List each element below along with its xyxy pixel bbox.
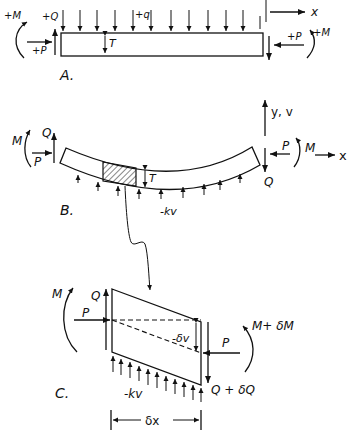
label-moment-left: M <box>52 287 63 301</box>
label-y-axis: y, v <box>271 105 293 119</box>
label-axial-right: P <box>222 336 230 350</box>
label-shear-left: Q <box>91 289 100 303</box>
panel-b: M Q P T -kv y, v P M x Q B. <box>12 100 347 290</box>
label-axial-left: P <box>82 306 90 320</box>
hatched-element <box>103 162 136 186</box>
label-moment-right: M <box>305 141 316 155</box>
label-x-axis: x <box>310 5 319 19</box>
label-x-axis: x <box>339 148 347 163</box>
label-length: δx <box>145 414 159 428</box>
label-shear-right: Q <box>264 175 273 189</box>
caption-b: B. <box>60 202 74 218</box>
label-shear-left: +Q <box>42 11 58 22</box>
label-moment-right: +M <box>313 27 330 38</box>
distributed-load-arrows <box>63 10 260 31</box>
label-shear-right: Q + δQ <box>211 383 255 397</box>
label-foundation: -kv <box>124 387 143 401</box>
label-foundation: -kv <box>160 205 177 218</box>
label-thickness: T <box>109 37 117 50</box>
label-deflection: -δv <box>172 332 190 345</box>
label-thickness: T <box>149 172 157 185</box>
label-moment-left: +M <box>4 10 21 21</box>
caption-a: A. <box>59 67 74 83</box>
label-moment-right: M+ δM <box>252 319 295 333</box>
panel-c: M Q P -δv P M+ δM Q + δQ -kv δx C. <box>52 287 295 430</box>
panel-a: +M +Q +P +q T +P +M x A. <box>4 0 330 83</box>
beam-b <box>60 147 260 190</box>
foundation-reaction-arrows <box>78 174 240 199</box>
beam-on-elastic-foundation-diagram: +M +Q +P +q T +P +M x A. <box>0 0 355 440</box>
label-axial-right: +P <box>287 31 302 42</box>
label-load-q: +q <box>135 9 150 20</box>
label-axial-left: +P <box>32 45 47 56</box>
caption-c: C. <box>55 385 69 401</box>
label-axial-right: P <box>282 139 290 153</box>
label-moment-left: M <box>12 134 23 148</box>
beam-a <box>61 33 263 56</box>
zoom-connector-arrow <box>125 186 150 290</box>
label-axial-left: P <box>34 155 42 169</box>
label-shear-left: Q <box>42 126 51 140</box>
